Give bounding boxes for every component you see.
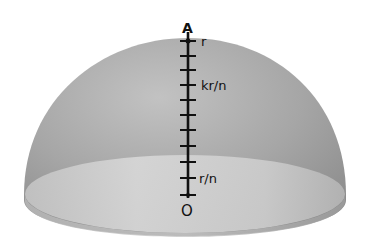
tick-label-r: r [201, 34, 207, 49]
point-label-o: O [181, 202, 193, 220]
tick-label-kr-n: kr/n [201, 78, 227, 93]
point-label-a: A [182, 20, 193, 36]
axis-top-dot [186, 39, 191, 44]
tick-label-r-n: r/n [199, 171, 217, 186]
axis-bottom-dot [186, 193, 190, 197]
hemisphere-diagram: A O r kr/n r/n [0, 0, 368, 251]
